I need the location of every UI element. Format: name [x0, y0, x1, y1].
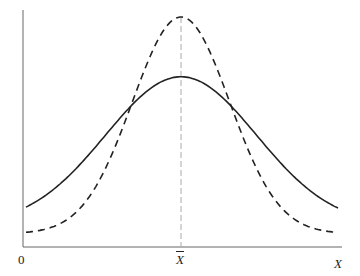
origin-label: 0 — [18, 252, 25, 268]
dashed-curve — [26, 17, 338, 232]
mean-label: X — [176, 252, 184, 268]
x-axis-label: X — [334, 256, 342, 272]
solid-curve — [26, 77, 338, 208]
chart-canvas — [0, 0, 360, 276]
